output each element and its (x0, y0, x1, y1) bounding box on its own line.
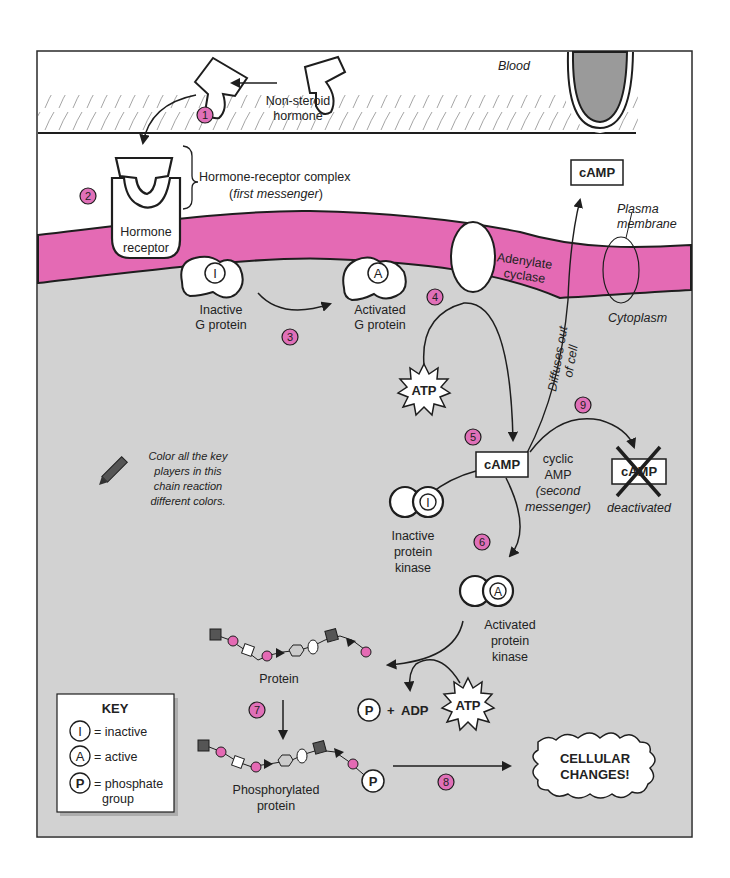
camp-label: cAMP (484, 457, 520, 472)
hormone-signaling-diagram: Blood Plasma membrane Cytoplasm Non-ster… (0, 0, 730, 878)
svg-text:6: 6 (479, 536, 485, 548)
step-badge-2: 2 (80, 188, 96, 204)
inactive-g-label: Inactive (199, 303, 242, 317)
step-badge-8: 8 (438, 774, 454, 790)
active-pk-label-3: kinase (492, 650, 528, 664)
svg-text:I: I (426, 496, 429, 510)
protein-label: Protein (259, 672, 299, 686)
step-badge-4: 4 (427, 289, 443, 305)
svg-text:CELLULAR: CELLULAR (560, 751, 631, 766)
adenylate-cyclase-icon (451, 222, 495, 292)
coloring-note-3: chain reaction (154, 480, 223, 492)
cyclic-label-3: (second (536, 484, 582, 498)
svg-text:= active: = active (94, 750, 137, 764)
deactivated-label: deactivated (607, 501, 672, 515)
active-g-label-2: G protein (354, 318, 405, 332)
svg-text:1: 1 (202, 109, 208, 121)
complex-label-2: (first messenger) (229, 187, 323, 201)
inactive-protein-kinase-icon: I (390, 487, 443, 517)
svg-text:P: P (365, 703, 374, 718)
plasma-membrane-label: Plasma (617, 202, 659, 216)
svg-text:I: I (213, 266, 217, 281)
adp-label: ADP (401, 703, 429, 718)
camp-out-label: cAMP (579, 165, 615, 180)
receptor-label: Hormone (120, 225, 171, 239)
hormone-label-2: hormone (273, 109, 322, 123)
svg-text:ATP: ATP (411, 383, 436, 398)
inactive-pk-label-2: protein (394, 545, 432, 559)
svg-text:= inactive: = inactive (94, 725, 147, 739)
svg-text:group: group (102, 792, 134, 806)
blood-label: Blood (498, 59, 531, 73)
svg-text:2: 2 (85, 190, 91, 202)
step-badge-6: 6 (474, 534, 490, 550)
cyclic-label: cyclic (543, 452, 574, 466)
cyclic-label-4: messenger) (525, 500, 591, 514)
active-pk-label-2: protein (491, 634, 529, 648)
coloring-note-4: different colors. (150, 495, 225, 507)
svg-text:CHANGES!: CHANGES! (560, 767, 629, 782)
svg-text:5: 5 (470, 431, 476, 443)
hormone-label: Non-steroid (266, 94, 331, 108)
inactive-pk-label-3: kinase (395, 561, 431, 575)
step-badge-1: 1 (197, 107, 213, 123)
tissue-band (38, 95, 638, 133)
plasma-membrane-label-2: membrane (617, 217, 677, 231)
svg-text:P: P (369, 774, 378, 789)
svg-text:KEY: KEY (102, 701, 129, 716)
receptor-label-2: receptor (123, 241, 169, 255)
svg-text:8: 8 (443, 776, 449, 788)
phosphorylated-label: Phosphorylated (233, 783, 320, 797)
phosphorylated-label-2: protein (257, 799, 295, 813)
key-legend: KEY I = inactive A = active P = phosphat… (57, 694, 178, 816)
step-badge-9: 9 (575, 397, 591, 413)
coloring-note: Color all the key (149, 450, 229, 462)
svg-text:A: A (374, 266, 383, 281)
step-badge-5: 5 (465, 429, 481, 445)
active-g-label: Activated (354, 303, 405, 317)
cytoplasm-label: Cytoplasm (608, 311, 667, 325)
svg-text:P: P (76, 776, 85, 791)
svg-text:A: A (494, 585, 502, 599)
active-pk-label: Activated (484, 618, 535, 632)
step-badge-3: 3 (282, 329, 298, 345)
plus-label: + (387, 703, 395, 718)
cellular-changes-burst-icon: CELLULAR CHANGES! (533, 733, 655, 798)
cyclic-label-2: AMP (544, 468, 571, 482)
svg-text:4: 4 (432, 291, 438, 303)
svg-text:7: 7 (254, 704, 260, 716)
svg-text:= phosphate: = phosphate (94, 777, 163, 791)
coloring-note-2: players in this (153, 465, 222, 477)
step-badge-7: 7 (249, 702, 265, 718)
svg-text:A: A (76, 749, 85, 764)
complex-label: Hormone-receptor complex (199, 170, 351, 184)
svg-text:9: 9 (580, 399, 586, 411)
svg-text:I: I (78, 724, 82, 739)
svg-text:3: 3 (287, 331, 293, 343)
inactive-g-label-2: G protein (195, 318, 246, 332)
active-g-protein-icon: A (343, 257, 406, 300)
svg-text:ATP: ATP (455, 698, 480, 713)
active-protein-kinase-icon: A (460, 576, 513, 606)
inactive-pk-label: Inactive (391, 529, 434, 543)
inactive-g-protein-icon: I (181, 257, 242, 298)
